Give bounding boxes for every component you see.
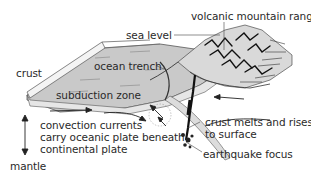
label-convection-line1: convection currents [40,119,142,131]
label-convection-line2: carry oceanic plate beneath [40,131,185,143]
label-convection-line3: continental plate [40,143,127,155]
label-crust-melts-line2: to surface [205,128,257,140]
label-subduction-zone: subduction zone [56,89,141,101]
label-mantle: mantle [10,160,46,172]
label-crust-melts-line1: crust melts and rises [205,116,311,128]
label-sea-level: sea level [126,29,172,41]
label-ocean-trench: ocean trench [94,60,162,72]
label-earthquake-focus: earthquake focus [203,148,293,160]
crust-mantle-arrow [22,115,28,155]
label-crust: crust [16,67,42,79]
label-volcanic-mountain-range: volcanic mountain range [191,10,311,22]
subduction-diagram: sea level volcanic mountain range crust … [0,0,311,183]
